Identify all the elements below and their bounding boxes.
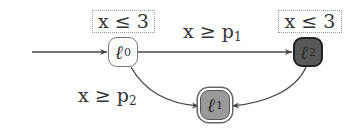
edge-l0-l1 (131, 67, 199, 106)
state-l1-index: 1 (216, 99, 223, 112)
edge-label-l0-l2: x ≥ p1 (183, 20, 242, 48)
edge-label-l0-l1-sub: 2 (129, 94, 137, 108)
edge-label-l0-l1-text: x ≥ p (78, 84, 129, 106)
state-l0-index: 0 (124, 46, 131, 59)
invariant-l0: x ≤ 3 (92, 10, 155, 33)
edge-label-l0-l2-sub: 1 (234, 30, 242, 44)
state-l2: ℓ2 (293, 37, 323, 67)
state-l0: ℓ0 (108, 37, 138, 67)
invariant-l2-text: x ≤ 3 (285, 10, 336, 32)
state-l0-symbol: ℓ (115, 41, 123, 64)
invariant-l2: x ≤ 3 (278, 10, 342, 33)
invariant-l0-text: x ≤ 3 (98, 10, 149, 32)
edge-label-l0-l2-text: x ≥ p (183, 20, 234, 42)
state-l1: ℓ1 (200, 90, 230, 120)
edge-l2-l1 (232, 67, 306, 106)
state-l2-index: 2 (309, 46, 316, 59)
edge-label-l0-l1: x ≥ p2 (78, 84, 137, 112)
state-l2-symbol: ℓ (300, 41, 308, 64)
state-l1-symbol: ℓ (207, 94, 215, 117)
